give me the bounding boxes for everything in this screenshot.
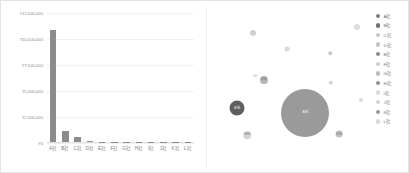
bar-slot[interactable] bbox=[72, 13, 84, 142]
bar-slot[interactable] bbox=[59, 13, 71, 142]
bubble-point[interactable]: A社 bbox=[281, 89, 329, 137]
legend-item-label: J社 bbox=[383, 99, 389, 105]
x-axis-tick-label: E社 bbox=[96, 145, 108, 151]
legend-item-label: B社 bbox=[383, 22, 390, 28]
legend-item-label: I社 bbox=[383, 90, 388, 96]
legend-swatch-icon bbox=[376, 14, 380, 18]
bubble-point-label: A社 bbox=[302, 111, 307, 114]
bar-chart-axis-baseline bbox=[47, 142, 194, 143]
bar-slot[interactable] bbox=[145, 13, 157, 142]
gridline bbox=[47, 143, 194, 144]
bar[interactable] bbox=[62, 131, 69, 142]
y-axis-tick-label: ¥5,000,000 bbox=[22, 89, 43, 94]
legend-swatch-icon bbox=[376, 23, 380, 27]
legend-item-label: E社 bbox=[383, 51, 390, 57]
legend-swatch-icon bbox=[376, 90, 380, 94]
legend-swatch-icon bbox=[376, 100, 380, 104]
legend-item[interactable]: A社 bbox=[376, 11, 409, 21]
y-axis-tick-label: ¥2,500,000 bbox=[22, 115, 43, 120]
legend-swatch-icon bbox=[376, 42, 380, 46]
bar-slot[interactable] bbox=[170, 13, 182, 142]
y-axis-tick-label: ¥10,000,000 bbox=[20, 37, 43, 42]
bar[interactable] bbox=[87, 141, 94, 142]
bubble-point[interactable] bbox=[329, 80, 334, 85]
bar-slot[interactable] bbox=[182, 13, 194, 142]
legend-swatch-icon bbox=[376, 33, 380, 37]
bubble-point[interactable] bbox=[254, 74, 258, 78]
legend-item[interactable]: G社 bbox=[376, 69, 409, 79]
bar-chart-panel: ¥0¥2,500,000¥5,000,000¥7,500,000¥10,000,… bbox=[1, 1, 206, 173]
bar-slot[interactable] bbox=[157, 13, 169, 142]
x-axis-tick-label: C社 bbox=[72, 145, 84, 151]
bar[interactable] bbox=[50, 30, 57, 142]
bar-slot[interactable] bbox=[96, 13, 108, 142]
bar-slot[interactable] bbox=[84, 13, 96, 142]
bar-chart-x-axis-labels: A社B社C社D社E社F社G社H社I社J社K社L社 bbox=[47, 145, 194, 151]
y-axis-tick-label: ¥0 bbox=[38, 141, 43, 146]
x-axis-tick-label: G社 bbox=[121, 145, 133, 151]
bubble-point-label: E社 bbox=[245, 134, 250, 137]
bubble-point-label: D社 bbox=[336, 132, 341, 135]
legend-item-label: H社 bbox=[383, 80, 390, 86]
bubble-point[interactable]: C社 bbox=[260, 76, 268, 84]
bar-slot[interactable] bbox=[47, 13, 59, 142]
x-axis-tick-label: I社 bbox=[145, 145, 157, 151]
x-axis-tick-label: B社 bbox=[59, 145, 71, 151]
bar-chart-plot-area: ¥0¥2,500,000¥5,000,000¥7,500,000¥10,000,… bbox=[47, 13, 194, 143]
x-axis-tick-label: J社 bbox=[157, 145, 169, 151]
legend-swatch-icon bbox=[376, 119, 380, 123]
x-axis-tick-label: F社 bbox=[108, 145, 120, 151]
x-axis-tick-label: K社 bbox=[170, 145, 182, 151]
y-axis-tick-label: ¥12,500,000 bbox=[20, 11, 43, 16]
legend-item[interactable]: H社 bbox=[376, 78, 409, 88]
legend-item[interactable]: L社 bbox=[376, 117, 409, 127]
legend-item[interactable]: F社 bbox=[376, 59, 409, 69]
bubble-chart-panel: A社B社C社D社E社 A社B社C社D社E社F社G社H社I社J社K社L社 bbox=[206, 1, 409, 173]
legend-swatch-icon bbox=[376, 62, 380, 66]
bubble-point-label: B社 bbox=[234, 106, 239, 109]
legend-item-label: C社 bbox=[383, 32, 390, 38]
bubble-point[interactable] bbox=[250, 30, 256, 36]
legend-item[interactable]: I社 bbox=[376, 88, 409, 98]
legend-item-label: L社 bbox=[383, 118, 389, 124]
x-axis-tick-label: D社 bbox=[84, 145, 96, 151]
bubble-point[interactable] bbox=[285, 47, 290, 52]
legend-item[interactable]: K社 bbox=[376, 107, 409, 117]
bar-slot[interactable] bbox=[121, 13, 133, 142]
legend-swatch-icon bbox=[376, 52, 380, 56]
legend-item-label: A社 bbox=[383, 13, 390, 19]
bubble-point[interactable] bbox=[354, 24, 360, 30]
legend-item-label: D社 bbox=[383, 42, 390, 48]
bar-slot[interactable] bbox=[133, 13, 145, 142]
bubble-point[interactable] bbox=[328, 51, 332, 55]
legend-swatch-icon bbox=[376, 81, 380, 85]
legend-item[interactable]: E社 bbox=[376, 49, 409, 59]
dashboard-canvas: ¥0¥2,500,000¥5,000,000¥7,500,000¥10,000,… bbox=[0, 0, 409, 173]
bubble-chart-legend: A社B社C社D社E社F社G社H社I社J社K社L社 bbox=[376, 11, 409, 126]
x-axis-tick-label: A社 bbox=[47, 145, 59, 151]
legend-swatch-icon bbox=[376, 110, 380, 114]
legend-swatch-icon bbox=[376, 71, 380, 75]
bubble-point[interactable]: B社 bbox=[229, 101, 244, 116]
legend-item[interactable]: C社 bbox=[376, 30, 409, 40]
legend-item-label: G社 bbox=[383, 70, 390, 76]
y-axis-tick-label: ¥7,500,000 bbox=[22, 63, 43, 68]
legend-item-label: F社 bbox=[383, 61, 390, 67]
legend-item[interactable]: B社 bbox=[376, 21, 409, 31]
bubble-point[interactable] bbox=[359, 98, 363, 102]
bubble-chart-plot-area: A社B社C社D社E社 bbox=[214, 9, 362, 164]
x-axis-tick-label: H社 bbox=[133, 145, 145, 151]
legend-item-label: K社 bbox=[383, 109, 390, 115]
bubble-point[interactable]: D社 bbox=[336, 130, 343, 137]
bar-slot[interactable] bbox=[108, 13, 120, 142]
bubble-point-label: C社 bbox=[261, 78, 266, 81]
bar[interactable] bbox=[74, 137, 81, 142]
legend-item[interactable]: J社 bbox=[376, 97, 409, 107]
bar-chart-bars bbox=[47, 13, 194, 142]
legend-item[interactable]: D社 bbox=[376, 40, 409, 50]
bubble-point[interactable]: E社 bbox=[244, 132, 252, 140]
x-axis-tick-label: L社 bbox=[182, 145, 194, 151]
